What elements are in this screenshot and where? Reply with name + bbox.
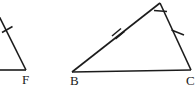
vertex-label-c: C bbox=[186, 74, 195, 87]
vertex-label-b: B bbox=[70, 74, 79, 87]
left-triangle bbox=[0, 6, 26, 70]
geometry-figure-svg bbox=[0, 0, 196, 96]
right-triangle-left-side-b-apex bbox=[72, 3, 160, 72]
left-triangle-right-side bbox=[0, 6, 26, 70]
vertex-label-f: F bbox=[22, 73, 29, 86]
right-triangle-right-side-apex-c bbox=[160, 3, 191, 70]
right-triangle bbox=[72, 3, 191, 72]
right-triangle-bottom-side-bc bbox=[72, 70, 191, 72]
geometry-figure-canvas: F B C bbox=[0, 0, 196, 96]
apex-angle-marker bbox=[154, 11, 167, 12]
